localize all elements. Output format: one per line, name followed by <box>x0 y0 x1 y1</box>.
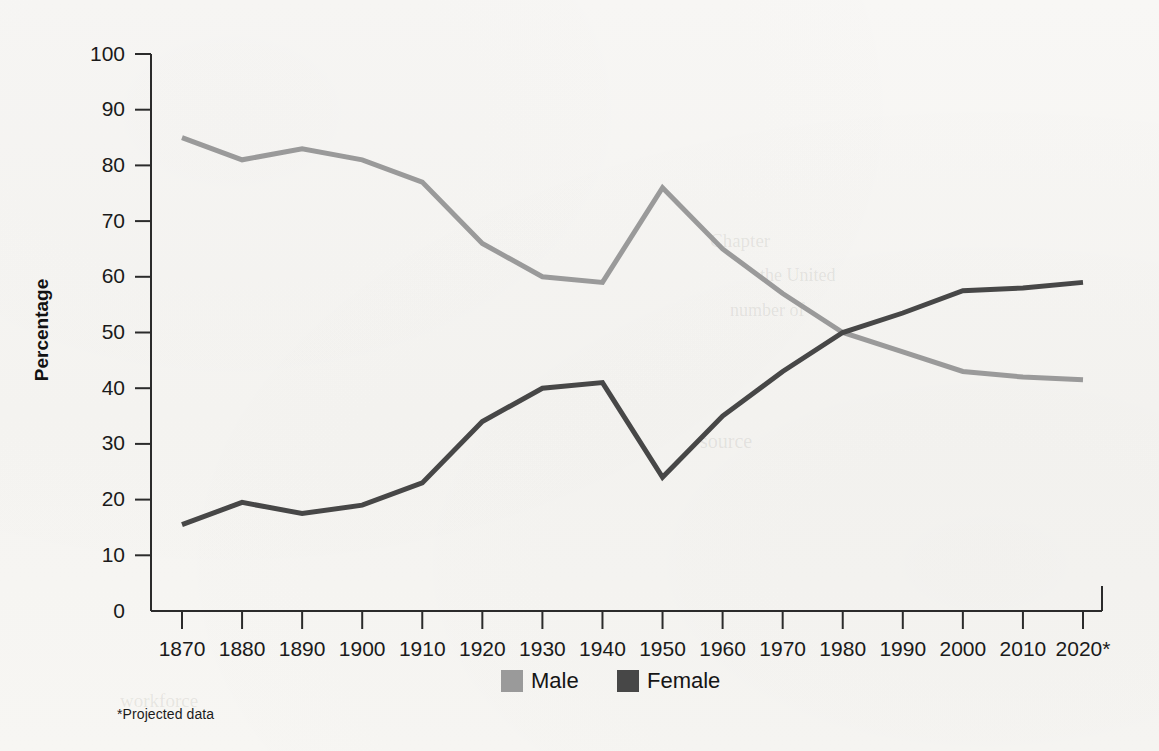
y-tick-label-80: 80 <box>102 153 125 176</box>
chart-svg: 0102030405060708090100 18701880189019001… <box>0 0 1159 751</box>
x-tick-group <box>182 611 1083 629</box>
legend-label-female: Female <box>647 668 720 693</box>
y-tick-label-60: 60 <box>102 264 125 287</box>
x-tick-label-2010: 2010 <box>1000 637 1047 660</box>
x-tick-label-1900: 1900 <box>339 637 386 660</box>
y-tick-label-50: 50 <box>102 320 125 343</box>
legend-swatch-male <box>501 670 523 692</box>
x-tick-label-1910: 1910 <box>399 637 446 660</box>
y-tick-label-10: 10 <box>102 543 125 566</box>
x-tick-label-1870: 1870 <box>159 637 206 660</box>
legend-swatch-female <box>617 670 639 692</box>
y-tick-label-20: 20 <box>102 487 125 510</box>
y-tick-label-100: 100 <box>90 42 125 65</box>
x-tick-label-1880: 1880 <box>219 637 266 660</box>
chart-page: Chapter the United number of source work… <box>0 0 1159 751</box>
legend-label-male: Male <box>531 668 579 693</box>
series-group <box>182 138 1083 525</box>
y-tick-label-group: 0102030405060708090100 <box>90 42 125 622</box>
y-tick-label-30: 30 <box>102 431 125 454</box>
x-tick-label-1980: 1980 <box>819 637 866 660</box>
x-tick-label-2020: 2020* <box>1056 637 1111 660</box>
y-tick-label-70: 70 <box>102 209 125 232</box>
x-tick-label-1950: 1950 <box>639 637 686 660</box>
x-tick-label-group: 1870188018901900191019201930194019501960… <box>159 637 1111 660</box>
series-line-female <box>182 282 1083 524</box>
x-tick-label-1970: 1970 <box>759 637 806 660</box>
chart-legend: MaleFemale <box>501 668 720 693</box>
x-tick-label-1940: 1940 <box>579 637 626 660</box>
y-tick-label-0: 0 <box>113 599 125 622</box>
x-tick-label-2000: 2000 <box>940 637 987 660</box>
x-tick-label-1920: 1920 <box>459 637 506 660</box>
y-tick-label-90: 90 <box>102 97 125 120</box>
x-tick-label-1890: 1890 <box>279 637 326 660</box>
x-tick-label-1930: 1930 <box>519 637 566 660</box>
y-axis-title: Percentage <box>31 279 52 381</box>
y-tick-group <box>135 54 151 555</box>
x-tick-label-1990: 1990 <box>879 637 926 660</box>
x-tick-label-1960: 1960 <box>699 637 746 660</box>
series-line-male <box>182 138 1083 380</box>
y-tick-label-40: 40 <box>102 376 125 399</box>
line-chart: 0102030405060708090100 18701880189019001… <box>0 0 1159 751</box>
footnote: *Projected data <box>117 706 214 722</box>
